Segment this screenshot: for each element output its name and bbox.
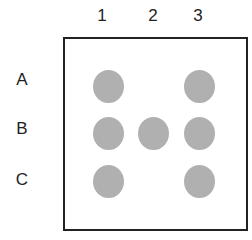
column-label-2: 2 [143, 6, 163, 26]
dot-b1 [93, 117, 124, 150]
row-label-a: A [12, 70, 32, 90]
column-label-3: 3 [188, 6, 208, 26]
column-label-1: 1 [92, 6, 112, 26]
row-label-c: C [12, 170, 32, 190]
dot-a1 [93, 70, 124, 103]
dot-b3 [184, 117, 215, 150]
dot-b2 [138, 117, 169, 150]
dot-a3 [184, 70, 215, 103]
row-label-b: B [12, 119, 32, 139]
dot-c1 [93, 165, 124, 198]
dot-c3 [184, 165, 215, 198]
